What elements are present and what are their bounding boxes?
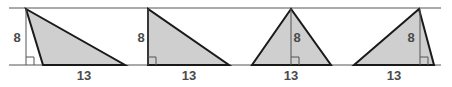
triangle-3-base-label: 13	[284, 68, 298, 83]
triangle-2-height-label: 8	[137, 30, 144, 45]
triangle-1-height-label: 8	[13, 30, 20, 45]
triangle-1: 8 13	[13, 9, 125, 83]
triangle-2-base-label: 13	[182, 68, 196, 83]
triangle-3-height-label: 8	[293, 30, 300, 45]
triangle-1-base-label: 13	[77, 68, 91, 83]
triangle-4-base-label: 13	[387, 68, 401, 83]
triangle-2-shape	[148, 9, 229, 65]
triangle-1-shape	[26, 9, 125, 65]
triangle-2: 8 13	[137, 9, 229, 83]
triangle-4-height-label: 8	[407, 30, 414, 45]
triangle-diagram: 8 13 8 13 8 13 8 13	[0, 0, 452, 87]
triangle-4: 8 13	[354, 9, 434, 83]
triangle-1-right-angle-icon	[26, 57, 34, 65]
triangle-3: 8 13	[252, 9, 331, 83]
